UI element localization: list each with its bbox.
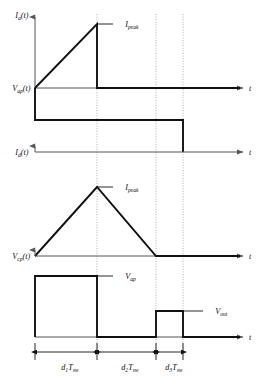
label-vout-level: Vout — [205, 307, 234, 318]
vap-waveform — [35, 88, 183, 152]
label-vcp-axis: Vcp(t) — [2, 252, 36, 262]
label-id-peak: Ipeak — [115, 183, 145, 194]
label-t-axis-2: t — [249, 148, 252, 157]
panel-vap — [35, 88, 183, 152]
gridline-group — [97, 14, 183, 350]
interval-dimension-group — [35, 343, 183, 360]
label-id-axis: Id(t) — [5, 148, 35, 158]
ia-waveform — [35, 24, 240, 88]
label-ia-axis: Ia(t) — [5, 11, 35, 21]
label-t-axis-1: t — [249, 84, 252, 93]
id-waveform — [35, 187, 240, 256]
waveform-diagram: Ia(t) Ipeak Vap(t) Id(t) Ipeak Vcp(t) Va… — [0, 0, 270, 377]
label-interval-d1: d1Tsw — [51, 363, 85, 374]
label-t-axis-3: t — [249, 252, 252, 261]
label-vap-level: Vap — [115, 272, 142, 283]
panel-id — [35, 146, 243, 256]
label-t-axis-4: t — [249, 333, 252, 342]
waveform-canvas: Ia(t) Ipeak Vap(t) Id(t) Ipeak Vcp(t) Va… — [0, 0, 270, 377]
label-interval-d2: d2Tsw — [111, 363, 145, 374]
label-interval-d3: d3Tsw — [155, 363, 189, 374]
label-ia-peak: Ipeak — [115, 20, 145, 31]
label-vap-axis: Vap(t) — [2, 84, 37, 94]
